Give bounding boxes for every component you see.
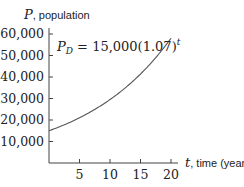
x-tick-label: 10 xyxy=(102,167,118,182)
y-tick-label: 30,000 xyxy=(0,91,44,106)
chart: 10,00020,00030,00040,00050,00060,000 510… xyxy=(0,0,244,187)
x-tick-label: 15 xyxy=(133,167,149,182)
y-axis-title: P, population xyxy=(23,7,90,22)
y-tick-label: 50,000 xyxy=(0,48,44,63)
equation-label: PD = 15,000(1.07)t xyxy=(56,37,181,56)
x-tick-label: 5 xyxy=(76,167,84,182)
y-tick-label: 60,000 xyxy=(0,26,44,41)
x-axis-title: t, time (years) xyxy=(185,155,244,170)
y-tick-label: 20,000 xyxy=(0,112,44,127)
x-tick-label: 20 xyxy=(163,167,179,182)
y-tick-label: 10,000 xyxy=(0,134,44,149)
y-tick-label: 40,000 xyxy=(0,69,44,84)
